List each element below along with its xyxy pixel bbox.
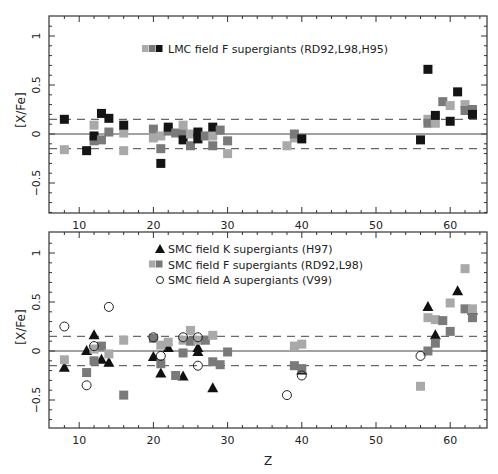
legend-label: LMC field F supergiants (RD92,L98,H95) bbox=[168, 43, 388, 56]
x-tick-label: 30 bbox=[221, 434, 235, 447]
y-tick-label: 0.5 bbox=[30, 76, 43, 94]
y-tick-label: −0.5 bbox=[30, 170, 43, 197]
data-point-circle bbox=[60, 322, 69, 331]
x-tick-label: 30 bbox=[221, 219, 235, 232]
legend-label: SMC field F supergiants (RD92,L98) bbox=[168, 259, 363, 272]
data-point-square bbox=[438, 316, 447, 325]
y-tick-label: −0.5 bbox=[30, 387, 43, 414]
y-axis-label: [X/Fe] bbox=[14, 92, 28, 127]
y-tick-label: 1 bbox=[30, 250, 43, 257]
x-tick-label: 10 bbox=[72, 434, 86, 447]
data-point-circle bbox=[416, 351, 425, 360]
x-tick-label: 10 bbox=[72, 219, 86, 232]
data-point-square bbox=[104, 128, 113, 137]
legend-label: SMC field A supergiants (V99) bbox=[168, 274, 332, 287]
data-point-square bbox=[446, 117, 455, 126]
data-point-square bbox=[416, 382, 425, 391]
legend-circle-icon bbox=[157, 277, 164, 284]
data-point-square bbox=[223, 149, 232, 158]
data-point-square bbox=[446, 101, 455, 110]
data-point-square bbox=[179, 348, 188, 357]
legend-label: SMC field K supergiants (H97) bbox=[168, 243, 333, 256]
x-tick-label: 20 bbox=[146, 434, 160, 447]
y-tick-label: 0 bbox=[30, 131, 43, 138]
x-tick-label: 50 bbox=[369, 434, 383, 447]
data-point-circle bbox=[104, 302, 113, 311]
data-point-square bbox=[104, 114, 113, 123]
panel-smc: 102030405060−0.500.51[X/Fe]SMC field K s… bbox=[14, 232, 487, 447]
legend-square-icon bbox=[156, 261, 163, 268]
data-point-square bbox=[208, 141, 217, 150]
data-point-square bbox=[461, 264, 470, 273]
data-point-square bbox=[156, 144, 165, 153]
legend-entry: LMC field F supergiants (RD92,L98,H95) bbox=[142, 43, 388, 56]
legend-square-icon bbox=[149, 45, 156, 52]
data-point-square bbox=[431, 111, 440, 120]
data-point-square bbox=[416, 135, 425, 144]
data-point-square bbox=[468, 304, 477, 313]
data-point-square bbox=[431, 119, 440, 128]
data-point-square bbox=[431, 339, 440, 348]
legend-square-icon bbox=[142, 45, 149, 52]
x-tick-label: 40 bbox=[295, 219, 309, 232]
data-point-square bbox=[119, 121, 128, 130]
data-point-circle bbox=[82, 381, 91, 390]
data-point-circle bbox=[282, 391, 291, 400]
data-point-square bbox=[216, 360, 225, 369]
legend-entry: SMC field K supergiants (H97) bbox=[155, 243, 333, 256]
y-tick-label: 0.5 bbox=[30, 293, 43, 311]
data-point-square bbox=[60, 355, 69, 364]
data-point-square bbox=[119, 129, 128, 138]
data-point-square bbox=[468, 313, 477, 322]
data-point-square bbox=[119, 336, 128, 345]
data-point-triangle bbox=[155, 368, 166, 378]
x-tick-label: 20 bbox=[146, 219, 160, 232]
data-point-square bbox=[186, 326, 195, 335]
data-point-square bbox=[282, 141, 291, 150]
data-point-square bbox=[164, 338, 173, 347]
data-point-square bbox=[82, 368, 91, 377]
data-point-triangle bbox=[430, 329, 441, 339]
x-axis-label: Z bbox=[264, 454, 272, 468]
data-point-square bbox=[216, 126, 225, 135]
data-point-square bbox=[297, 340, 306, 349]
data-point-square bbox=[423, 65, 432, 74]
data-point-square bbox=[446, 327, 455, 336]
data-point-square bbox=[208, 331, 217, 340]
panel-lmc: 102030405060−0.500.51[X/Fe]LMC field F s… bbox=[14, 16, 487, 232]
data-point-square bbox=[104, 349, 113, 358]
data-point-square bbox=[60, 145, 69, 154]
data-point-square bbox=[156, 159, 165, 168]
legend-square-icon bbox=[149, 261, 156, 268]
data-point-triangle bbox=[452, 285, 463, 295]
x-tick-label: 40 bbox=[295, 434, 309, 447]
data-point-circle bbox=[156, 351, 165, 360]
data-point-triangle bbox=[422, 301, 433, 311]
data-point-triangle bbox=[89, 329, 100, 339]
data-point-square bbox=[223, 347, 232, 356]
data-point-square bbox=[179, 121, 188, 130]
y-tick-label: 0 bbox=[30, 348, 43, 355]
data-point-square bbox=[82, 146, 91, 155]
data-point-square bbox=[90, 121, 99, 130]
data-point-square bbox=[171, 371, 180, 380]
data-point-square bbox=[223, 136, 232, 145]
legend-entry: SMC field A supergiants (V99) bbox=[157, 274, 333, 287]
y-tick-label: 1 bbox=[30, 33, 43, 40]
data-point-square bbox=[453, 87, 462, 96]
data-point-square bbox=[60, 115, 69, 124]
data-point-square bbox=[97, 135, 106, 144]
data-point-square bbox=[119, 146, 128, 155]
x-tick-label: 60 bbox=[443, 434, 457, 447]
data-point-square bbox=[90, 356, 99, 365]
y-axis-label: [X/Fe] bbox=[14, 309, 28, 344]
data-point-square bbox=[119, 391, 128, 400]
legend-square-icon bbox=[156, 45, 163, 52]
data-point-square bbox=[468, 110, 477, 119]
data-point-square bbox=[446, 298, 455, 307]
data-point-triangle bbox=[207, 382, 218, 392]
data-point-square bbox=[297, 134, 306, 143]
legend-triangle-icon bbox=[155, 244, 165, 253]
figure: 102030405060−0.500.51[X/Fe]LMC field F s… bbox=[0, 0, 498, 474]
legend-entry: SMC field F supergiants (RD92,L98) bbox=[149, 259, 363, 272]
